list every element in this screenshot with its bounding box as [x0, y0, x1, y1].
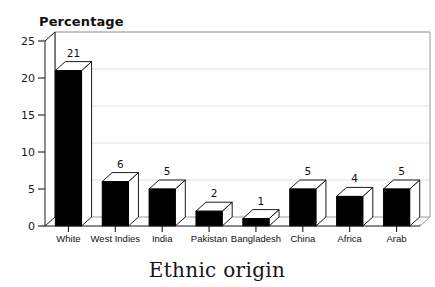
category-labels: WhiteWest IndiesIndiaPakistanBangladeshC…	[56, 233, 406, 244]
bar-front-face	[102, 182, 128, 226]
bar-front-face	[149, 189, 175, 226]
y-tick-label: 0	[28, 220, 35, 233]
y-tick-label: 15	[21, 109, 35, 122]
bar-front-face	[337, 196, 363, 226]
bar-side-face	[82, 62, 92, 226]
x-axis-title: Ethnic origin	[149, 258, 285, 282]
bar-front-face	[196, 211, 222, 226]
category-label: White	[56, 233, 80, 244]
bar-chart: Percentage 0510152025 WhiteWest IndiesIn…	[0, 0, 435, 287]
category-label: China	[290, 233, 316, 244]
category-label: Pakistan	[191, 233, 227, 244]
y-tick-label: 25	[21, 35, 35, 48]
bar-value-label: 21	[67, 47, 80, 59]
y-axis-title: Percentage	[39, 14, 124, 29]
chart-canvas: Percentage 0510152025 WhiteWest IndiesIn…	[0, 0, 435, 287]
y-tick-label: 5	[28, 183, 35, 196]
bar-arab	[383, 180, 419, 226]
bar-west-indies	[102, 173, 138, 226]
bar-china	[290, 180, 326, 226]
bar-africa	[337, 187, 373, 226]
bar-front-face	[243, 219, 269, 226]
bar-value-label: 6	[117, 158, 124, 170]
bar-value-label: 5	[304, 165, 311, 177]
bar-value-label: 2	[211, 187, 218, 199]
bar-value-label: 1	[258, 195, 265, 207]
bar-value-label: 4	[351, 172, 358, 184]
bar-front-face	[55, 71, 81, 226]
category-label: Bangladesh	[231, 233, 281, 244]
y-tick-label: 10	[21, 146, 35, 159]
bar-pakistan	[196, 202, 232, 226]
category-label: India	[152, 233, 173, 244]
category-label: Africa	[338, 233, 363, 244]
y-axis-slab	[45, 32, 55, 226]
y-tick-label: 20	[21, 72, 35, 85]
bar-front-face	[383, 189, 409, 226]
bar-value-label: 5	[398, 165, 405, 177]
bar-value-label: 5	[164, 165, 171, 177]
bar-front-face	[290, 189, 316, 226]
category-label: West Indies	[91, 233, 141, 244]
bar-white	[55, 62, 91, 226]
category-label: Arab	[387, 233, 407, 244]
bar-india	[149, 180, 185, 226]
